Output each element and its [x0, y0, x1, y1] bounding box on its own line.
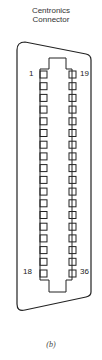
pin-row-left [40, 71, 47, 277]
pin-left-15 [40, 235, 47, 242]
pin-left-8 [40, 153, 47, 160]
pin-label-18: 18 [23, 267, 32, 276]
pin-left-2 [40, 83, 47, 90]
centronics-connector-diagram [0, 0, 102, 360]
pin-left-12 [40, 200, 47, 207]
pin-left-16 [40, 247, 47, 254]
pin-left-4 [40, 106, 47, 113]
pin-channel-outline [40, 58, 72, 292]
pin-left-17 [40, 258, 47, 265]
pin-label-36: 36 [80, 267, 89, 276]
pin-left-10 [40, 176, 47, 183]
pin-left-5 [40, 118, 47, 125]
figure-caption: (b) [0, 340, 102, 349]
pin-left-9 [40, 165, 47, 172]
pin-left-6 [40, 130, 47, 137]
pin-left-18 [40, 270, 47, 277]
pin-label-1: 1 [29, 69, 33, 78]
pin-label-19: 19 [80, 69, 89, 78]
pin-left-13 [40, 212, 47, 219]
pin-left-11 [40, 188, 47, 195]
pin-left-7 [40, 141, 47, 148]
pin-left-3 [40, 94, 47, 101]
pin-left-1 [40, 71, 47, 78]
pin-left-14 [40, 223, 47, 230]
